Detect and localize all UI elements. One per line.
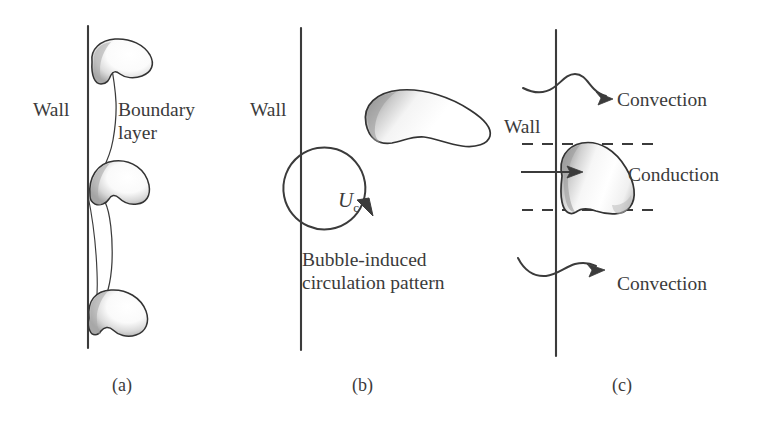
convection-arrow-bottom-c xyxy=(518,258,605,277)
figure-bubble-heat-transfer: Wall Boundarylayer (a) Wall Uc Bubble-in… xyxy=(0,0,759,432)
label-wall-panel-a: Wall xyxy=(33,98,69,121)
label-convection-bottom-panel-c: Convection xyxy=(617,272,707,295)
panel-c-graphics xyxy=(518,30,660,356)
label-wall-panel-c: Wall xyxy=(504,115,540,138)
velocity-symbol: U xyxy=(338,188,353,212)
label-convection-top-panel-c: Convection xyxy=(617,88,707,111)
label-circulation-pattern-panel-b: Bubble-inducedcirculation pattern xyxy=(302,248,444,294)
label-conduction-panel-c: Conduction xyxy=(628,163,719,186)
label-boundary-layer-panel-a: Boundarylayer xyxy=(118,98,195,144)
velocity-subscript: c xyxy=(353,200,359,215)
bubble-a-3 xyxy=(88,290,147,336)
bubble-b-1 xyxy=(365,90,490,147)
boundary-layer-line2: layer xyxy=(118,122,157,143)
bubble-a-1 xyxy=(92,39,153,84)
circulation-pattern-line1: Bubble-induced xyxy=(302,249,427,270)
convection-arrow-top-c xyxy=(523,74,613,105)
bubble-a-2 xyxy=(90,161,150,205)
caption-panel-b: (b) xyxy=(352,375,373,396)
panel-b-graphics xyxy=(279,28,490,350)
label-wall-panel-b: Wall xyxy=(250,98,286,121)
caption-panel-c: (c) xyxy=(612,375,632,396)
caption-panel-a: (a) xyxy=(112,375,132,396)
circulation-pattern-line2: circulation pattern xyxy=(302,272,444,293)
boundary-layer-line1: Boundary xyxy=(118,99,195,120)
figure-canvas xyxy=(0,0,759,432)
panel-a-graphics xyxy=(88,26,152,348)
label-circulation-velocity-symbol: Uc xyxy=(338,188,359,216)
bubble-c-1 xyxy=(561,143,634,214)
